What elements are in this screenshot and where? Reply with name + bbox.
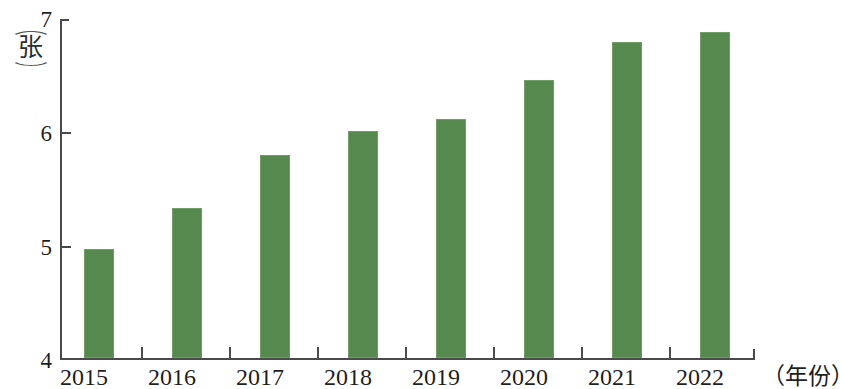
x-axis-line: [60, 358, 755, 360]
y-axis-line: [60, 19, 62, 360]
bar-2015[interactable]: [84, 249, 114, 358]
bar-2019[interactable]: [436, 119, 466, 358]
x-tick-mark-6: [581, 347, 583, 358]
x-tick-mark-7: [669, 347, 671, 358]
bar-2016[interactable]: [172, 208, 202, 358]
x-tick-label-2016: 2016: [127, 364, 217, 389]
x-tick-mark-4: [405, 347, 407, 358]
y-axis-unit-text: 张: [18, 33, 43, 63]
x-axis-unit-label: （年份）: [762, 364, 843, 389]
x-tick-label-2018: 2018: [303, 364, 393, 389]
x-tick-label-2022: 2022: [655, 364, 745, 389]
y-tick-label-7: 7: [26, 8, 52, 31]
y-tick-mark-6: [62, 132, 71, 134]
bar-2017[interactable]: [260, 155, 290, 358]
y-axis-top-cap: [60, 19, 69, 21]
y-axis-unit-paren-close: ︶: [13, 63, 47, 73]
x-tick-mark-1: [141, 347, 143, 358]
bar-2021[interactable]: [612, 42, 642, 358]
x-axis-end-cap: [753, 349, 755, 360]
x-tick-mark-2: [229, 347, 231, 358]
plot-area: [60, 19, 755, 360]
bar-2022[interactable]: [700, 32, 730, 358]
bar-2020[interactable]: [524, 80, 554, 358]
x-tick-label-2015: 2015: [39, 364, 129, 389]
bar-2018[interactable]: [348, 131, 378, 358]
x-tick-label-2017: 2017: [215, 364, 305, 389]
x-tick-label-2021: 2021: [567, 364, 657, 389]
x-tick-mark-5: [493, 347, 495, 358]
y-tick-label-6: 6: [26, 122, 52, 145]
x-tick-label-2020: 2020: [479, 364, 569, 389]
y-tick-label-5: 5: [26, 236, 52, 259]
x-tick-mark-3: [317, 347, 319, 358]
y-tick-mark-5: [62, 246, 71, 248]
x-tick-label-2019: 2019: [391, 364, 481, 389]
